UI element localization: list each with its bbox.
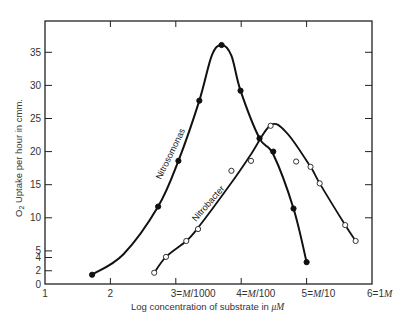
- nitrosomonas-point: [176, 158, 181, 163]
- nitrobacter-point: [268, 123, 273, 128]
- nitrosomonas-point: [219, 42, 224, 47]
- nitrosomonas-point: [238, 88, 243, 93]
- x-axis-title: Log concentration of substrate in μM: [131, 301, 285, 312]
- nitrobacter-point: [195, 226, 200, 231]
- nitrobacter-point: [353, 238, 358, 243]
- nitrobacter-point: [308, 164, 313, 169]
- y-tick-label: 25: [30, 113, 42, 124]
- x-tick-label: 4=M/100: [236, 288, 276, 299]
- y-tick-label: 15: [30, 179, 42, 190]
- y-tick-label: 5: [35, 245, 41, 256]
- nitrobacter-point: [294, 159, 299, 164]
- nitrosomonas-point: [291, 206, 296, 211]
- nitrobacter-label: Nitrobacter: [190, 184, 226, 224]
- nitrosomonas-point: [89, 272, 94, 277]
- x-tick-label: 2: [108, 288, 114, 299]
- y-axis: 0245101520253035: [30, 47, 372, 290]
- y-tick-label: 2: [35, 265, 41, 276]
- x-tick-label: 3=M/1000: [171, 288, 216, 299]
- nitrosomonas-point: [257, 136, 262, 141]
- y-tick-label: 35: [30, 47, 42, 58]
- y-axis-title: O2 Uptake per hour in cmm.: [13, 99, 25, 217]
- nitrobacter-point: [317, 181, 322, 186]
- nitrosomonas-label: Nitrosomonas: [154, 126, 188, 181]
- nitrosomonas-point: [156, 204, 161, 209]
- nitrobacter-point: [229, 168, 234, 173]
- x-axis: 123=M/10004=M/1005=M/106=1M: [42, 21, 393, 299]
- x-tick-label: 1: [42, 288, 48, 299]
- nitrobacter-point: [152, 270, 157, 275]
- nitrobacter-point: [184, 238, 189, 243]
- nitrosomonas-curve: [92, 45, 307, 275]
- plot-frame: [45, 21, 372, 284]
- nitrobacter-point: [248, 158, 253, 163]
- nitrobacter-point: [163, 254, 168, 259]
- x-tick-label: 6=1M: [367, 288, 393, 299]
- y-tick-label: 10: [30, 212, 42, 223]
- y-tick-label: 30: [30, 80, 42, 91]
- x-tick-label: 5=M/10: [302, 288, 336, 299]
- plot-border: [45, 21, 372, 284]
- plot-area: NitrosomonasNitrobacter: [89, 42, 358, 277]
- nitrosomonas-point: [304, 260, 309, 265]
- y-tick-label: 20: [30, 146, 42, 157]
- nitrobacter-point: [343, 222, 348, 227]
- nitrosomonas-point: [271, 149, 276, 154]
- y-tick-label: 0: [35, 279, 41, 290]
- chart: 0245101520253035 123=M/10004=M/1005=M/10…: [0, 0, 413, 329]
- nitrosomonas-point: [197, 98, 202, 103]
